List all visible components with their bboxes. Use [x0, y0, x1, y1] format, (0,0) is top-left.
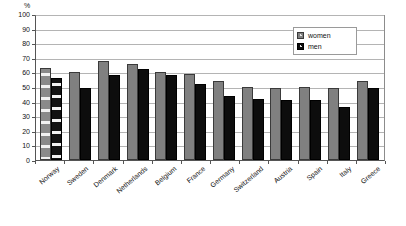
x-axis-category-label: Spain [305, 165, 323, 182]
legend-swatch-women-icon [297, 32, 304, 39]
legend-swatch-men-icon [297, 43, 304, 50]
bar-men [281, 100, 292, 160]
bar-men [109, 75, 120, 160]
x-axis-category-label: Switzerland [232, 165, 264, 194]
bar-men [310, 100, 321, 160]
legend-item-women: women [297, 30, 353, 41]
y-axis-tick-label: 70 [0, 55, 30, 62]
legend: women men [293, 27, 357, 55]
y-axis-tick-label: 20 [0, 128, 30, 135]
y-axis-tick-mark [32, 73, 35, 74]
bar-group [66, 16, 95, 160]
x-axis-category-label: Germany [209, 165, 236, 189]
bar-men [339, 107, 350, 160]
x-axis-category-label: Greece [359, 165, 381, 185]
bar-men [166, 75, 177, 160]
y-axis-tick-label: 100 [0, 11, 30, 18]
bar-group [95, 16, 124, 160]
y-axis-tick-mark [32, 132, 35, 133]
y-axis-unit-label: % [24, 2, 30, 9]
bar-group [267, 16, 296, 160]
y-axis-tick-mark [32, 88, 35, 89]
bar-women [213, 81, 224, 160]
y-axis-tick-label: 40 [0, 99, 30, 106]
y-axis-tick-label: 60 [0, 69, 30, 76]
bar-chart: % NorwaySwedenDenmarkNetherlandsBelgiumF… [0, 0, 406, 226]
bar-group [238, 16, 267, 160]
legend-label-women: women [308, 32, 331, 39]
bar-women [127, 64, 138, 160]
bar-men [195, 84, 206, 160]
legend-item-men: men [297, 41, 353, 52]
x-axis-category-label: Austria [273, 165, 294, 184]
bar-men [80, 88, 91, 160]
bar-group [123, 16, 152, 160]
x-axis-category-label: Sweden [66, 165, 90, 187]
y-axis-tick-mark [32, 44, 35, 45]
bar-men [368, 88, 379, 160]
bar-group [353, 16, 382, 160]
y-axis-tick-label: 30 [0, 113, 30, 120]
bar-men [51, 78, 62, 160]
y-axis-tick-mark [32, 59, 35, 60]
bar-women [270, 88, 281, 160]
y-axis-tick-label: 0 [0, 157, 30, 164]
x-axis-category-label: Denmark [93, 165, 119, 189]
y-axis-tick-label: 90 [0, 26, 30, 33]
y-axis-tick-label: 50 [0, 84, 30, 91]
x-axis-category-label: Belgium [153, 165, 177, 187]
bar-women [69, 72, 80, 160]
y-axis-tick-mark [32, 117, 35, 118]
bar-group [181, 16, 210, 160]
legend-label-men: men [308, 43, 322, 50]
bar-men [224, 96, 235, 160]
y-axis-tick-mark [32, 161, 35, 162]
bar-women [328, 88, 339, 160]
y-axis-tick-mark [32, 103, 35, 104]
y-axis-tick-label: 10 [0, 142, 30, 149]
bar-group [37, 16, 66, 160]
y-axis-tick-label: 80 [0, 40, 30, 47]
x-axis-category-label: Italy [338, 165, 352, 179]
bar-men [253, 99, 264, 160]
bar-women [357, 81, 368, 160]
y-axis-tick-mark [32, 15, 35, 16]
bar-women [40, 68, 51, 160]
bar-women [242, 87, 253, 160]
bar-women [98, 61, 109, 160]
x-axis-category-label: Netherlands [115, 165, 148, 195]
x-axis-category-label: France [185, 165, 206, 184]
y-axis-tick-mark [32, 30, 35, 31]
bar-group [152, 16, 181, 160]
bar-women [299, 87, 310, 160]
bar-women [155, 72, 166, 160]
y-axis-tick-mark [32, 146, 35, 147]
bar-men [138, 69, 149, 160]
x-axis-labels: NorwaySwedenDenmarkNetherlandsBelgiumFra… [0, 163, 406, 225]
bar-women [184, 74, 195, 160]
bar-group [210, 16, 239, 160]
x-axis-category-label: Norway [38, 165, 61, 186]
